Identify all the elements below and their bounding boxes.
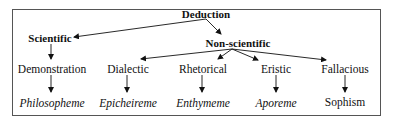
node-aporeme: Aporeme bbox=[255, 98, 296, 110]
node-non-scientific: Non-scientific bbox=[206, 38, 271, 49]
node-deduction: Deduction bbox=[182, 9, 230, 20]
arrow-non-scientific-to-dialectic bbox=[141, 49, 232, 59]
node-demonstration: Demonstration bbox=[18, 64, 86, 76]
arrow-deduction-to-non-scientific bbox=[206, 19, 221, 34]
node-eristic: Eristic bbox=[261, 64, 291, 76]
node-dialectic: Dialectic bbox=[107, 64, 149, 76]
node-rhetorical: Rhetorical bbox=[179, 64, 227, 76]
node-enthymeme: Enthymeme bbox=[176, 98, 230, 110]
node-sophism: Sophism bbox=[325, 97, 365, 109]
deduction-classification-diagram: Deduction Scientific Non-scientific Demo… bbox=[0, 0, 393, 124]
node-fallacious: Fallacious bbox=[321, 64, 368, 76]
node-epicheireme: Epicheireme bbox=[99, 98, 157, 110]
node-scientific: Scientific bbox=[28, 33, 71, 44]
arrow-deduction-to-scientific bbox=[74, 19, 206, 37]
node-philosopheme: Philosopheme bbox=[19, 98, 84, 110]
